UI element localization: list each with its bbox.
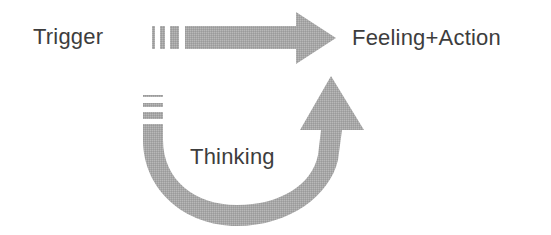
diagram-canvas: Trigger Feeling+Action Thinking	[0, 0, 551, 235]
arrow-tail-stripe	[143, 95, 163, 97]
node-label-trigger: Trigger	[33, 26, 103, 48]
arrow-right-icon	[185, 12, 336, 64]
straight-arrow	[152, 12, 336, 64]
node-label-thinking: Thinking	[190, 146, 275, 168]
arrow-tail-stripe	[143, 103, 163, 107]
arrow-tail-stripe	[152, 26, 155, 49]
arrow-tail-stripe	[160, 26, 165, 49]
arrow-tail-stripe	[143, 112, 163, 119]
arrow-tail-stripe	[170, 26, 179, 49]
node-label-feeling-action: Feeling+Action	[352, 27, 501, 49]
